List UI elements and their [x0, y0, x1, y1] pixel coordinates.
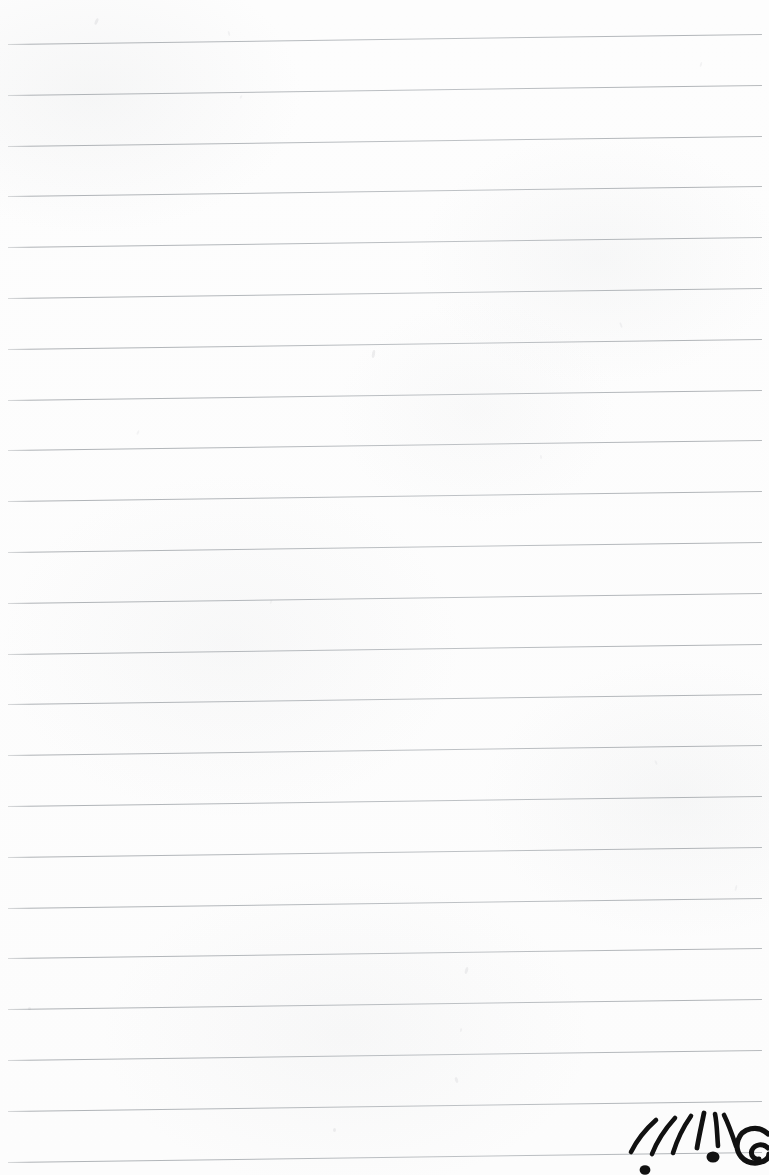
radiating-stroke-3: [673, 1116, 691, 1153]
radiating-stroke-1: [631, 1120, 656, 1152]
pencil-mark: [94, 18, 99, 26]
pencil-smudges: [0, 0, 769, 1175]
pencil-mark: [619, 322, 623, 328]
pencil-mark: [464, 967, 469, 975]
rule-line: [8, 491, 762, 502]
rule-line: [8, 237, 762, 248]
small-dot: [640, 1165, 651, 1175]
radiating-stroke-4: [697, 1113, 704, 1148]
rule-line: [8, 948, 762, 959]
ink-doodle-bottom-right: [600, 1090, 769, 1175]
pencil-mark: [269, 600, 272, 604]
pencil-mark: [239, 95, 243, 99]
rule-line: [8, 1101, 762, 1112]
rule-line: [8, 847, 762, 858]
rule-line: [8, 745, 762, 756]
spiral-curl-outer: [737, 1128, 769, 1163]
rule-line: [8, 796, 762, 807]
rule-line: [8, 999, 762, 1010]
rule-line: [8, 1152, 762, 1163]
rule-line: [8, 644, 762, 655]
rule-line: [8, 898, 762, 909]
rule-line: [8, 593, 762, 604]
pencil-mark: [699, 62, 702, 67]
pencil-mark: [654, 760, 658, 765]
pencil-mark: [333, 1128, 336, 1132]
rule-line: [8, 288, 762, 299]
rule-line: [8, 339, 762, 350]
rule-line: [8, 542, 762, 553]
rule-line: [8, 136, 762, 147]
pencil-mark: [227, 31, 230, 36]
pencil-mark: [460, 1028, 463, 1032]
pencil-mark: [454, 1077, 459, 1084]
pencil-mark: [136, 430, 140, 435]
pencil-mark: [371, 350, 375, 358]
rule-line: [8, 390, 762, 401]
rule-line: [8, 1050, 762, 1061]
rule-line: [8, 186, 762, 197]
pencil-mark: [540, 455, 543, 459]
spiral-curl-inner: [751, 1145, 768, 1159]
radiating-stroke-6: [724, 1115, 736, 1146]
rule-line: [8, 34, 762, 45]
radiating-stroke-2: [652, 1118, 675, 1154]
radiating-stroke-5: [715, 1114, 718, 1146]
pencil-mark: [28, 1007, 31, 1010]
rule-line: [8, 694, 762, 705]
ruled-lines: [0, 0, 769, 1175]
rule-line: [8, 440, 762, 451]
pencil-mark: [734, 885, 737, 891]
rule-line: [8, 85, 762, 96]
large-dot: [707, 1151, 720, 1162]
paper-texture: [0, 0, 769, 1175]
notebook-page: [0, 0, 769, 1175]
